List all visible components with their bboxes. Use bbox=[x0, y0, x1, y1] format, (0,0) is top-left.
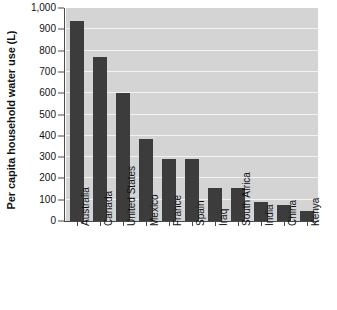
plot-area bbox=[66, 8, 318, 221]
y-axis-tick-label: 200 bbox=[39, 173, 56, 183]
y-axis-line bbox=[64, 8, 65, 222]
y-axis-tick-label: 100 bbox=[39, 195, 56, 205]
x-axis-tick-label-text: Kenya bbox=[311, 198, 321, 226]
y-axis-tick-label: 900 bbox=[39, 24, 56, 34]
y-axis-tick-label: 700 bbox=[39, 67, 56, 77]
x-axis-tick-label-text: France bbox=[173, 195, 183, 226]
x-axis-tick-label: Kenya bbox=[311, 226, 337, 310]
x-axis-tick-label-text: Iraq bbox=[219, 209, 229, 226]
y-axis-tick-label: 300 bbox=[39, 152, 56, 162]
bars-group bbox=[66, 8, 318, 221]
y-axis-tick-label: 600 bbox=[39, 88, 56, 98]
bar-chart-figure: Per capita household water use (L) 01002… bbox=[0, 0, 337, 310]
x-axis-tick-label-text: Australia bbox=[81, 187, 91, 226]
x-axis-tick-label-text: South Africa bbox=[242, 172, 252, 226]
y-axis-tick-label: 500 bbox=[39, 110, 56, 120]
y-axis-tick-label: 400 bbox=[39, 131, 56, 141]
y-axis-tick-label: 800 bbox=[39, 46, 56, 56]
x-axis-tick-label-text: China bbox=[288, 200, 298, 226]
x-axis-tick-label-text: India bbox=[265, 204, 275, 226]
y-axis-tick-label: 0 bbox=[50, 216, 56, 226]
x-axis-tick-label-text: Canada bbox=[104, 191, 114, 226]
y-axis-title-text: Per capita household water use (L) bbox=[5, 31, 17, 210]
y-axis-title: Per capita household water use (L) bbox=[0, 0, 22, 240]
x-axis-tick-labels: AustraliaCanadaUnited StatesMexicoFrance… bbox=[66, 226, 318, 310]
y-axis-tick-label: 1,000 bbox=[31, 3, 56, 13]
x-axis-tick-label: Iraq bbox=[219, 226, 236, 310]
x-axis-tick-label: Spain bbox=[196, 226, 222, 310]
x-axis-tick-label-text: United States bbox=[127, 166, 137, 226]
x-axis-tick-label-text: Spain bbox=[196, 200, 206, 226]
x-axis-tick-label: India bbox=[265, 226, 287, 310]
x-axis-tick-label-text: Mexico bbox=[150, 194, 160, 226]
y-axis-tick-labels: 01002003004005006007008009001,000 bbox=[20, 8, 56, 221]
